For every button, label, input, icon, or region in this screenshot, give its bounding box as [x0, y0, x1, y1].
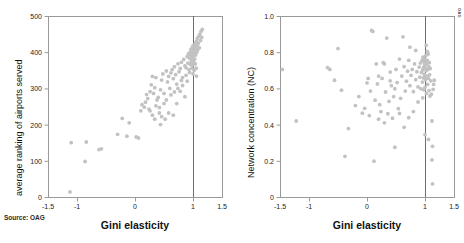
data-point — [380, 77, 384, 81]
x-tick-label: 1 — [191, 203, 195, 210]
corner-watermark: OAG — [457, 8, 462, 18]
data-point — [149, 83, 153, 87]
data-point — [408, 84, 412, 88]
data-point — [154, 104, 158, 108]
data-point — [154, 76, 158, 80]
data-point — [405, 79, 409, 83]
data-point — [343, 154, 347, 158]
x-axis-title-right: Gini elasticity — [333, 219, 401, 231]
data-point — [200, 35, 204, 39]
y-tick-label: 0.6 — [242, 85, 274, 92]
data-point — [427, 138, 431, 142]
data-point — [116, 132, 120, 136]
data-point — [423, 86, 427, 90]
data-point — [184, 73, 188, 77]
data-point — [412, 90, 416, 94]
data-point — [403, 89, 407, 93]
data-point — [416, 100, 420, 104]
data-point — [431, 87, 435, 91]
data-point — [378, 103, 382, 107]
data-point — [426, 83, 430, 87]
data-point — [153, 86, 157, 90]
data-point — [191, 72, 195, 76]
data-point — [171, 77, 175, 81]
y-tick-label: 300 — [10, 85, 42, 92]
data-point — [425, 92, 429, 96]
data-point — [333, 78, 337, 82]
data-point — [181, 84, 185, 88]
data-point — [424, 43, 428, 47]
data-point — [153, 117, 157, 121]
y-tick-label: 1.0 — [242, 13, 274, 20]
data-point — [407, 116, 411, 120]
data-point — [167, 111, 171, 115]
data-point — [413, 62, 417, 66]
data-point — [430, 158, 434, 162]
data-point — [412, 110, 416, 114]
data-point — [347, 127, 351, 131]
data-point — [178, 67, 182, 71]
data-point-group — [68, 27, 204, 193]
data-point — [174, 73, 178, 77]
data-point — [175, 82, 179, 86]
data-point — [166, 80, 170, 84]
data-point — [393, 87, 397, 91]
data-point — [125, 134, 129, 138]
data-point — [418, 75, 422, 79]
data-point — [427, 89, 431, 93]
data-point — [357, 95, 361, 99]
data-point — [384, 90, 388, 94]
data-point — [169, 93, 173, 97]
x-tick-label: -1.5 — [42, 203, 54, 210]
data-point — [336, 47, 340, 51]
data-point — [388, 79, 392, 83]
data-point — [180, 79, 184, 83]
data-point — [402, 65, 406, 69]
y-tick-label: 0.4 — [242, 121, 274, 128]
data-point — [176, 62, 180, 66]
y-tick-label: 0 — [10, 194, 42, 201]
data-point — [199, 39, 203, 43]
data-point — [152, 92, 156, 96]
data-point — [373, 98, 377, 102]
data-point — [157, 111, 161, 115]
data-point — [406, 69, 410, 73]
data-point — [389, 84, 393, 88]
x-tick-label: 1.5 — [449, 203, 459, 210]
data-point — [394, 67, 398, 71]
data-point — [163, 117, 167, 121]
data-point — [151, 75, 155, 79]
data-point — [421, 96, 425, 100]
data-point — [363, 106, 367, 110]
data-point — [120, 117, 124, 121]
y-tick-label: 0.8 — [242, 49, 274, 56]
data-point — [420, 80, 424, 84]
data-point — [69, 141, 73, 145]
data-point — [385, 36, 389, 40]
y-tick-label: 0.2 — [242, 157, 274, 164]
data-point — [427, 61, 431, 65]
data-point — [383, 121, 387, 125]
data-point — [162, 102, 166, 106]
figure-root: average ranking of airports served Gini … — [0, 0, 464, 243]
x-tick-label: -1 — [74, 203, 80, 210]
data-point — [425, 49, 429, 53]
y-tick-label: 100 — [10, 157, 42, 164]
data-point — [159, 123, 163, 127]
data-point — [294, 119, 298, 123]
data-point — [167, 75, 171, 79]
data-point — [391, 116, 395, 120]
data-point — [200, 27, 204, 31]
data-point — [377, 74, 381, 78]
data-point — [183, 95, 187, 99]
data-point-group — [280, 29, 436, 186]
data-point — [383, 62, 387, 66]
data-point — [428, 73, 432, 77]
y-tick-label: 500 — [10, 13, 42, 20]
x-tick-label: 1.5 — [217, 203, 227, 210]
data-point — [142, 105, 146, 109]
data-point — [409, 73, 413, 77]
data-point — [354, 104, 358, 108]
data-point — [374, 62, 378, 66]
data-point — [399, 96, 403, 100]
